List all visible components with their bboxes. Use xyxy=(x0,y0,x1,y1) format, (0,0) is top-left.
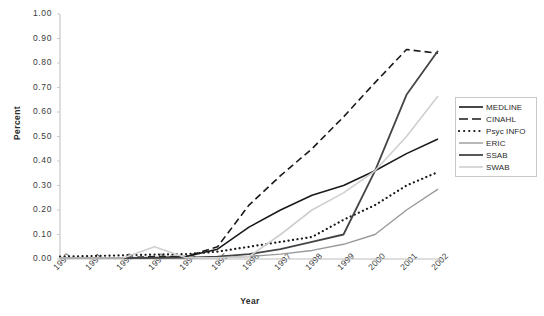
series-line-psyc-info xyxy=(60,172,438,257)
legend-swatch-swab xyxy=(458,162,484,172)
legend-item[interactable]: SWAB xyxy=(458,161,534,173)
legend: MEDLINECINAHLPsyc INFOERICSSABSWAB xyxy=(455,97,537,177)
series-line-swab xyxy=(60,96,438,258)
legend-item[interactable]: MEDLINE xyxy=(458,101,534,113)
legend-label: CINAHL xyxy=(484,115,516,124)
legend-item[interactable]: SSAB xyxy=(458,149,534,161)
series-line-eric xyxy=(60,189,438,258)
legend-swatch-psyc-info xyxy=(458,126,484,136)
legend-label: ERIC xyxy=(484,139,506,148)
legend-label: Psyc INFO xyxy=(484,127,526,136)
legend-swatch-cinahl xyxy=(458,114,484,124)
legend-swatch-eric xyxy=(458,138,484,148)
legend-swatch-medline xyxy=(458,102,484,112)
legend-item[interactable]: CINAHL xyxy=(458,113,534,125)
line-chart: Percent Year 1.000.900.800.700.600.500.4… xyxy=(0,0,544,316)
legend-label: SSAB xyxy=(484,151,508,160)
legend-item[interactable]: ERIC xyxy=(458,137,534,149)
legend-item[interactable]: Psyc INFO xyxy=(458,125,534,137)
legend-swatch-ssab xyxy=(458,150,484,160)
legend-label: MEDLINE xyxy=(484,103,522,112)
legend-label: SWAB xyxy=(484,163,510,172)
